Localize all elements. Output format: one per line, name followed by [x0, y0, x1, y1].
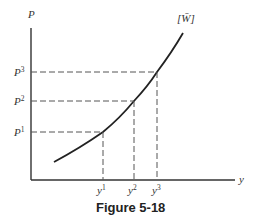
y1-label: y1: [96, 183, 106, 196]
p3-label: P3: [13, 65, 25, 78]
figure-diagram: P y [W̄] P3 P2 P1 y1 y2 y3 Figure 5-18: [0, 0, 253, 218]
p1-label: P1: [13, 125, 25, 138]
figure-caption: Figure 5-18: [96, 200, 165, 215]
y3-label: y3: [151, 183, 161, 196]
curve-label: [W̄]: [177, 12, 195, 24]
y2-label: y2: [127, 183, 137, 196]
w-bar-curve: [54, 33, 183, 162]
x-axis-label: y: [238, 173, 244, 185]
y-axis-label: P: [27, 8, 35, 20]
p2-label: P2: [13, 94, 25, 107]
